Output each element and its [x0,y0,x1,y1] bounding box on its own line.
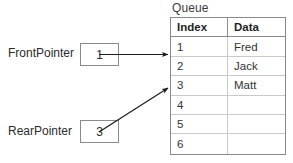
table-row: 2 Jack [171,57,285,76]
column-header-data: Data [228,18,285,36]
rear-pointer-value-box: 3 [80,120,119,143]
table-row: 3 Matt [171,76,285,95]
rear-pointer-label: RearPointer [8,124,72,138]
cell-data [228,115,285,133]
front-pointer-label: FrontPointer [8,46,74,60]
table-row: 6 [171,134,285,153]
table-header-row: Index Data [171,18,285,37]
queue-table: Index Data 1 Fred 2 Jack 3 Matt 4 5 6 [170,17,286,155]
cell-index: 6 [171,134,228,153]
cell-index: 2 [171,57,228,75]
table-row: 4 [171,96,285,115]
cell-index: 5 [171,115,228,133]
column-header-index: Index [171,18,228,36]
table-row: 1 Fred [171,37,285,56]
cell-index: 3 [171,76,228,94]
queue-title: Queue [172,1,209,15]
front-pointer-value-box: 1 [80,43,119,66]
queue-diagram: Queue Index Data 1 Fred 2 Jack 3 Matt 4 … [0,0,293,163]
cell-index: 4 [171,96,228,114]
table-row: 5 [171,115,285,134]
cell-data: Matt [228,76,285,94]
cell-data: Jack [228,57,285,75]
cell-data: Fred [228,37,285,55]
cell-index: 1 [171,37,228,55]
cell-data [228,134,285,153]
cell-data [228,96,285,114]
